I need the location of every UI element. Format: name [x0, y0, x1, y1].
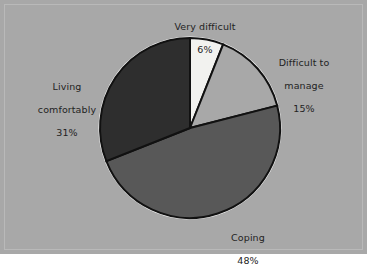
slice-label-difficult-to-manage-value: 15%: [252, 103, 356, 115]
slice-label-difficult-to-manage-text-line2: manage: [252, 80, 356, 92]
slice-label-living-comfortably-text-line2: comfortably: [13, 104, 121, 116]
slice-label-living-comfortably-value: 31%: [13, 127, 121, 139]
slice-label-living-comfortably-text-line1: Living: [13, 81, 121, 93]
slice-label-coping-text: Coping: [197, 232, 299, 244]
slice-label-difficult-to-manage: Difficult to manage 15%: [252, 45, 356, 126]
slice-label-living-comfortably: Living comfortably 31%: [13, 69, 121, 150]
slice-label-coping: Coping 48%: [197, 220, 299, 268]
slice-label-difficult-to-manage-text-line1: Difficult to: [252, 57, 356, 69]
slice-label-coping-value: 48%: [197, 255, 299, 267]
slice-label-very-difficult: Very difficult 6%: [152, 9, 258, 67]
slice-label-very-difficult-value: 6%: [152, 44, 258, 56]
slice-label-very-difficult-text: Very difficult: [152, 21, 258, 33]
